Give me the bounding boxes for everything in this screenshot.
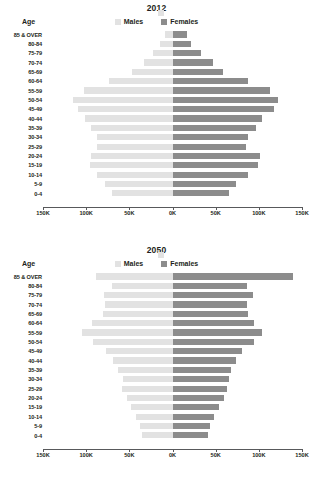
bar-males[interactable] — [160, 41, 172, 47]
bar-females[interactable] — [173, 432, 208, 438]
bar-females[interactable] — [173, 125, 257, 131]
bar-females[interactable] — [173, 404, 220, 410]
bar-males[interactable] — [153, 50, 173, 56]
age-group-label: 65-69 — [0, 69, 42, 75]
bar-females[interactable] — [173, 78, 249, 84]
bar-females[interactable] — [173, 283, 247, 289]
bar-males[interactable] — [97, 172, 173, 178]
bar-females[interactable] — [173, 181, 237, 187]
x-axis-tick-label: 50K — [124, 452, 134, 458]
bar-females[interactable] — [173, 376, 229, 382]
age-group-label: 30-34 — [0, 376, 42, 382]
bar-males[interactable] — [91, 125, 172, 131]
pyramid-row: 30-34 — [0, 133, 313, 142]
bar-females[interactable] — [173, 50, 201, 56]
bar-males[interactable] — [96, 273, 173, 279]
pyramid-row: 45-49 — [0, 105, 313, 114]
row-bars — [43, 412, 302, 421]
bar-females[interactable] — [173, 97, 278, 103]
bar-females[interactable] — [173, 320, 254, 326]
bar-females[interactable] — [173, 172, 248, 178]
legend-item-males[interactable]: Males — [115, 260, 143, 267]
bar-males[interactable] — [97, 144, 172, 150]
bar-males[interactable] — [84, 87, 173, 93]
bar-males[interactable] — [144, 59, 172, 65]
bar-males[interactable] — [106, 348, 172, 354]
x-axis-tick-label: 150K — [295, 210, 308, 216]
bar-females[interactable] — [173, 115, 263, 121]
legend-label-females: Females — [170, 260, 198, 267]
age-group-label: 20-24 — [0, 395, 42, 401]
legend-label-males: Males — [124, 18, 143, 25]
pyramid-row: 45-49 — [0, 347, 313, 356]
bar-males[interactable] — [104, 292, 172, 298]
pyramid-row: 15-19 — [0, 403, 313, 412]
bar-females[interactable] — [173, 292, 253, 298]
bar-females[interactable] — [173, 395, 225, 401]
bar-rows-2012: 85 & OVER80-8475-7970-7465-6960-6455-595… — [0, 30, 313, 208]
legend-item-females[interactable]: Females — [161, 260, 198, 267]
x-axis-tick-label: 150K — [295, 452, 308, 458]
bar-males[interactable] — [122, 386, 172, 392]
bar-females[interactable] — [173, 386, 227, 392]
bar-males[interactable] — [97, 134, 173, 140]
bar-females[interactable] — [173, 31, 188, 37]
bar-males[interactable] — [105, 181, 172, 187]
bar-males[interactable] — [90, 162, 173, 168]
bar-males[interactable] — [140, 423, 173, 429]
bar-females[interactable] — [173, 41, 192, 47]
bar-males[interactable] — [113, 357, 173, 363]
legend-item-females[interactable]: Females — [161, 18, 198, 25]
bar-females[interactable] — [173, 367, 232, 373]
bar-females[interactable] — [173, 348, 242, 354]
bar-females[interactable] — [173, 59, 214, 65]
row-bars — [43, 142, 302, 151]
bar-males[interactable] — [127, 395, 173, 401]
bar-females[interactable] — [173, 357, 237, 363]
bar-males[interactable] — [123, 376, 172, 382]
bar-females[interactable] — [173, 162, 258, 168]
bar-males[interactable] — [82, 329, 173, 335]
bar-females[interactable] — [173, 69, 223, 75]
age-group-label: 55-59 — [0, 330, 42, 336]
row-bars — [43, 151, 302, 160]
pyramid-row: 85 & OVER — [0, 30, 313, 39]
bar-males[interactable] — [118, 367, 172, 373]
bar-females[interactable] — [173, 414, 214, 420]
bar-females[interactable] — [173, 329, 263, 335]
row-bars — [43, 58, 302, 67]
bar-males[interactable] — [73, 97, 172, 103]
bar-females[interactable] — [173, 106, 275, 112]
bar-males[interactable] — [165, 31, 173, 37]
x-axis-labels-2050: 150K100K50K0K50K100K150K — [43, 450, 302, 462]
bar-males[interactable] — [109, 78, 173, 84]
pyramid-row: 35-39 — [0, 365, 313, 374]
bar-males[interactable] — [131, 404, 172, 410]
age-group-label: 60-64 — [0, 320, 42, 326]
bar-males[interactable] — [78, 106, 173, 112]
bar-males[interactable] — [105, 301, 172, 307]
bar-females[interactable] — [173, 273, 294, 279]
bar-males[interactable] — [112, 283, 172, 289]
bar-females[interactable] — [173, 153, 260, 159]
pyramid-row: 0-4 — [0, 431, 313, 440]
bar-females[interactable] — [173, 311, 248, 317]
bar-males[interactable] — [93, 339, 172, 345]
bar-males[interactable] — [142, 432, 172, 438]
bar-females[interactable] — [173, 87, 271, 93]
bar-males[interactable] — [112, 190, 172, 196]
bar-males[interactable] — [85, 115, 172, 121]
legend-item-males[interactable]: Males — [115, 18, 143, 25]
bar-males[interactable] — [92, 320, 172, 326]
bar-females[interactable] — [173, 339, 254, 345]
bar-males[interactable] — [91, 153, 172, 159]
bar-males[interactable] — [132, 69, 173, 75]
bar-females[interactable] — [173, 134, 249, 140]
bar-males[interactable] — [103, 311, 173, 317]
bar-females[interactable] — [173, 423, 211, 429]
age-group-label: 10-14 — [0, 414, 42, 420]
bar-females[interactable] — [173, 190, 230, 196]
bar-females[interactable] — [173, 144, 246, 150]
bar-females[interactable] — [173, 301, 247, 307]
bar-males[interactable] — [136, 414, 172, 420]
